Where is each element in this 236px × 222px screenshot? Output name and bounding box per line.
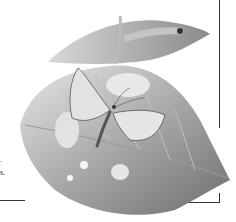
illustration [0,0,236,222]
main-leaf [20,66,230,215]
